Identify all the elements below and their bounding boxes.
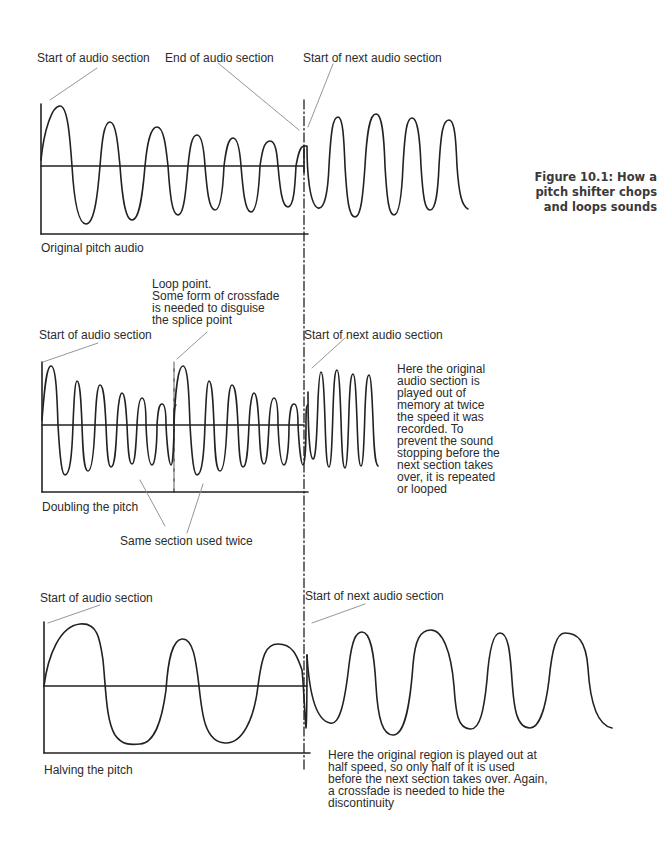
label-start-of-section-3: Start of audio section <box>40 592 153 604</box>
note-doubling: Here the original audio section is playe… <box>397 363 500 495</box>
waveform-original <box>41 106 304 224</box>
panel-title-halving: Halving the pitch <box>44 764 133 776</box>
pitch-shifter-diagram <box>0 0 666 847</box>
panel-title-doubling: Doubling the pitch <box>42 501 138 513</box>
figure-caption: Figure 10.1: How a pitch shifter chops a… <box>534 170 657 215</box>
waveform-doubled-next <box>308 370 378 468</box>
panel-title-original: Original pitch audio <box>41 242 144 254</box>
waveform-halved-next <box>307 630 612 735</box>
waveform-doubled-b <box>174 366 308 475</box>
note-halving: Here the original region is played out a… <box>328 749 547 809</box>
label-next-section-1: Start of next audio section <box>303 52 442 64</box>
label-next-section-2: Start of next audio section <box>304 329 443 341</box>
leaders-panel-1 <box>50 63 333 130</box>
leaders-panel-3 <box>48 604 365 623</box>
label-same-section: Same section used twice <box>120 535 253 547</box>
label-start-of-section-1: Start of audio section <box>37 52 150 64</box>
waveform-original-next <box>304 114 468 217</box>
label-end-of-section-1: End of audio section <box>165 52 274 64</box>
label-loop-point: Loop point. Some form of crossfade is ne… <box>152 278 279 326</box>
label-next-section-3: Start of next audio section <box>305 590 444 602</box>
waveform-halved <box>44 624 307 745</box>
waveform-doubled-a <box>42 366 176 475</box>
label-start-of-section-2: Start of audio section <box>39 329 152 341</box>
panel-original-axes <box>41 104 308 234</box>
